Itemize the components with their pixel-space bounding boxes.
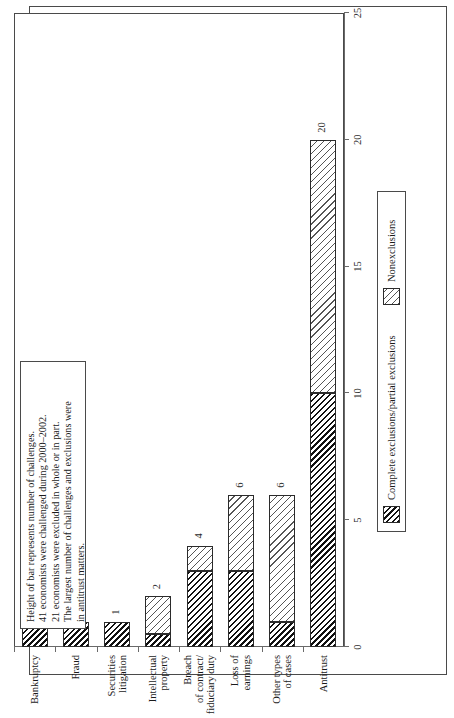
bar-value-label: 6 (234, 483, 245, 488)
category-tick-mark (220, 647, 221, 652)
bar-segment-exclusions (228, 571, 254, 647)
legend-item[interactable]: Nonexclusions (383, 220, 400, 305)
axis-tick-label: 20 (352, 127, 363, 153)
legend-label: Nonexclusions (386, 220, 397, 282)
category-tick-mark (179, 647, 180, 652)
category-label: Other typesof cases (271, 655, 294, 718)
legend-swatch-nonexclusions-icon (383, 288, 400, 305)
bar-value-label: 20 (316, 122, 327, 133)
axis-tick-mark (344, 139, 349, 140)
category-label: Antitrust (318, 655, 330, 718)
category-tick-mark (55, 647, 56, 652)
note-line: 41 economists were challenged during 200… (37, 368, 49, 622)
bar-value-label: 1 (110, 609, 121, 614)
category-tick-mark (303, 647, 304, 652)
category-label: Securitieslitigation (106, 655, 129, 718)
bar-segment-exclusions (104, 622, 130, 647)
bar-segment-exclusions (187, 571, 213, 647)
note-line: 21 economists were excluded in whole or … (50, 368, 62, 622)
value-axis-line (344, 13, 345, 647)
legend-label: Complete exclusions/partial exclusions (386, 336, 397, 500)
category-label: Loss ofearnings (229, 655, 252, 718)
legend-item[interactable]: Complete exclusions/partial exclusions (383, 336, 400, 523)
bar-row (145, 13, 171, 647)
bar-segment-nonexclusions (310, 140, 336, 394)
category-label: Breachof contract/fiduciary duty (182, 655, 217, 718)
axis-tick-label: 25 (352, 0, 363, 26)
bar-row (228, 13, 254, 647)
bar-value-label: 4 (193, 533, 204, 538)
category-tick-mark (138, 647, 139, 652)
legend-swatch-exclusions-icon (383, 506, 400, 523)
axis-tick-mark (344, 519, 349, 520)
axis-tick-mark (344, 646, 349, 647)
bar-segment-exclusions (310, 393, 336, 647)
note-line: in antitrust matters. (75, 368, 87, 622)
category-label: Fraud (70, 655, 82, 718)
bar-row (187, 13, 213, 647)
axis-tick-label: 5 (352, 507, 363, 533)
bar-row (104, 13, 130, 647)
axis-tick-label: 15 (352, 254, 363, 280)
axis-tick-label: 10 (352, 380, 363, 406)
bar-segment-nonexclusions (145, 596, 171, 634)
category-label: Intellectualproperty (147, 655, 170, 718)
note-textbox: Height of bar represents number of chall… (20, 361, 86, 629)
bar-value-label: 2 (151, 584, 162, 589)
axis-tick-mark (344, 392, 349, 393)
category-tick-mark (262, 647, 263, 652)
note-line: The largest number of challenges and exc… (62, 368, 74, 622)
axis-tick-mark (344, 12, 349, 13)
bar-segment-nonexclusions (269, 495, 295, 622)
bar-segment-exclusions (145, 634, 171, 647)
bar-segment-exclusions (269, 622, 295, 647)
category-label: Bankruptcy (29, 655, 41, 718)
bar-row (269, 13, 295, 647)
note-line: Height of bar represents number of chall… (25, 368, 37, 622)
category-tick-mark (14, 647, 15, 652)
category-tick-mark (97, 647, 98, 652)
bar-row (310, 13, 336, 647)
bar-segment-nonexclusions (187, 546, 213, 571)
axis-tick-label: 0 (352, 634, 363, 660)
axis-tick-mark (344, 266, 349, 267)
bar-segment-nonexclusions (228, 495, 254, 571)
bar-value-label: 6 (275, 483, 286, 488)
legend: Complete exclusions/partial exclusionsNo… (377, 191, 406, 532)
